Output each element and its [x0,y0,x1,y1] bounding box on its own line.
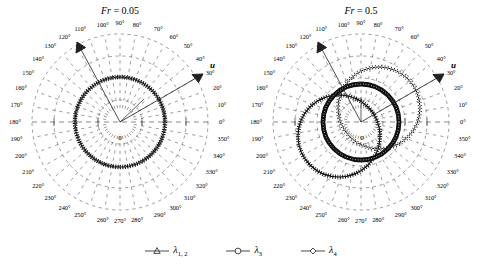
angle-tick-90: 90° [357,19,366,26]
angle-tick-120: 120° [59,33,71,40]
angle-tick-190: 190° [252,135,264,142]
polar-svg-right: 0 u 0°10°20°30°40°50°60°70°80°90°100°110… [261,22,461,222]
angle-tick-230: 230° [285,194,297,201]
angle-tick-300: 300° [411,204,423,211]
arrow-u-right [361,74,444,122]
angle-tick-50: 50° [184,42,193,49]
grid-spoke-340 [133,127,203,152]
polar-plot-right: 0 u 0°10°20°30°40°50°60°70°80°90°100°110… [261,22,461,222]
legend-item-lambda3[interactable]: λ3 [225,244,262,257]
angle-tick-10: 10° [459,101,468,108]
angle-tick-150: 150° [22,69,34,76]
grid-spoke-320 [131,131,188,179]
angle-tick-330: 330° [206,168,218,175]
angle-tick-320: 320° [196,182,208,189]
angle-tick-170: 170° [11,101,23,108]
angle-tick-100: 100° [97,21,109,28]
angle-tick-280: 280° [131,216,143,223]
angle-tick-30: 30° [206,69,215,76]
grid-spoke-170 [33,107,106,120]
panel-title-right-eq: = [357,5,363,16]
angle-tick-40: 40° [196,55,205,62]
angle-tick-310: 310° [184,194,196,201]
grid-spoke-70 [366,39,391,109]
grid-spoke-280 [122,136,135,209]
angle-tick-140: 140° [32,55,44,62]
angle-tick-340: 340° [213,152,225,159]
diamond-marker [300,245,326,257]
angle-tick-110: 110° [74,25,86,32]
angle-tick-150: 150° [263,69,275,76]
angle-tick-120: 120° [300,33,312,40]
legend-label-lambda12: λ1, 2 [173,244,187,257]
angle-tick-40: 40° [437,55,446,62]
angle-tick-130: 130° [44,42,56,49]
angle-tick-190: 190° [11,135,23,142]
angle-tick-250: 250° [74,211,86,218]
angle-tick-210: 210° [22,168,34,175]
triangle-marker [144,245,170,257]
panel-title-left-text: Fr [101,5,111,16]
grid-spoke-20 [133,92,203,117]
angle-tick-220: 220° [273,182,285,189]
grid-spoke-130 [63,55,111,112]
grid-spoke-240 [317,134,354,198]
grid-spoke-290 [125,135,150,205]
grid-spoke-200 [278,127,348,152]
panel-title-right-value: 0.5 [365,5,378,16]
panel-title-right: Fr = 0.5 [241,5,481,16]
center-label-left: 0 [118,134,122,142]
angle-tick-180: 180° [250,118,262,125]
angle-tick-300: 300° [170,204,182,211]
grid-spoke-10 [134,107,207,120]
angle-tick-250: 250° [315,211,327,218]
grid-spoke-220 [53,131,110,179]
circle-marker [225,245,251,257]
angle-tick-320: 320° [437,182,449,189]
angle-tick-60: 60° [411,33,420,40]
polar-panel-fr-0-05: Fr = 0.05 [0,0,240,240]
grid-spoke-190 [274,124,347,137]
angle-tick-280: 280° [372,216,384,223]
angle-tick-100: 100° [338,21,350,28]
legend-item-lambda4[interactable]: λ4 [300,244,337,257]
grid-spoke-350 [134,124,207,137]
angle-tick-290: 290° [395,211,407,218]
legend-item-lambda12[interactable]: λ1, 2 [144,244,187,257]
angle-tick-220: 220° [32,182,44,189]
angle-tick-80: 80° [374,21,383,28]
angle-tick-340: 340° [454,152,466,159]
angle-tick-330: 330° [447,168,459,175]
grid-spoke-110 [331,39,356,109]
grid-spoke-40 [131,65,188,113]
angle-tick-240: 240° [300,204,312,211]
angle-tick-80: 80° [133,21,142,28]
angle-tick-260: 260° [338,216,350,223]
panel-title-left: Fr = 0.05 [0,5,240,16]
angle-tick-140: 140° [273,55,285,62]
angle-tick-50: 50° [425,42,434,49]
panel-title-left-value: 0.05 [122,5,140,16]
legend-label-lambda3: λ3 [254,244,262,257]
grid-spoke-20 [374,92,444,117]
panel-title-right-text: Fr [344,5,354,16]
angle-tick-0: 0° [460,118,466,125]
angle-tick-90: 90° [116,19,125,26]
angle-tick-20: 20° [454,84,463,91]
legend: λ1, 2 λ3 λ4 [0,244,481,272]
grid-spoke-110 [90,39,115,109]
angle-tick-170: 170° [252,101,264,108]
angle-tick-30: 30° [447,69,456,76]
grid-spoke-200 [37,127,107,152]
angle-tick-0: 0° [219,118,225,125]
grid-spoke-80 [363,35,376,108]
angle-tick-270: 270° [114,217,126,224]
angle-tick-160: 160° [256,84,268,91]
grid-spoke-260 [105,136,118,209]
grid-spoke-250 [90,135,115,205]
angle-tick-110: 110° [315,25,327,32]
angle-tick-230: 230° [44,194,56,201]
angle-tick-200: 200° [15,152,27,159]
center-label-right: 0 [360,134,364,142]
angle-tick-70: 70° [154,25,163,32]
